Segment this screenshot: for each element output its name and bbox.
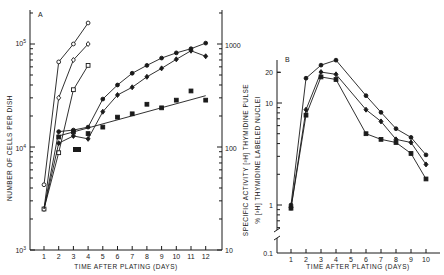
x-tick-label: 4: [86, 253, 90, 260]
panel-label-b: B: [285, 56, 290, 63]
data-point-square: [145, 102, 149, 106]
data-point-circle: [204, 41, 208, 45]
data-point-circle: [72, 42, 76, 46]
y2-tick-label: 100: [225, 145, 237, 152]
x-tick-label: 9: [160, 253, 164, 260]
y-tick-label: 0.1: [263, 250, 273, 257]
panel-b: 0.11102012345678910TIME AFTER PLATING (D…: [242, 56, 440, 271]
data-point-square: [57, 151, 61, 155]
plating-marker-bar: [73, 147, 81, 152]
data-point-circle: [424, 153, 428, 157]
data-point-circle: [379, 110, 383, 114]
data-point-square: [364, 132, 368, 136]
y-axis-label: NUMBER OF CELLS PER DISH: [6, 95, 13, 201]
x-tick-label: 3: [71, 253, 75, 260]
panel-a: 103104105101001000123456789101112TIME AF…: [6, 10, 241, 271]
data-point-circle: [394, 127, 398, 131]
data-point-square: [394, 141, 398, 145]
data-point-square: [116, 115, 120, 119]
data-point-diamond: [57, 95, 61, 100]
data-point-square: [409, 152, 413, 156]
series-line: [291, 72, 426, 208]
x-axis-label: TIME AFTER PLATING (DAYS): [306, 263, 409, 271]
axis-break-icon: [274, 228, 280, 240]
data-point-square: [289, 206, 293, 210]
x-tick-label: 7: [130, 253, 134, 260]
data-point-circle: [130, 71, 134, 75]
x-tick-label: 10: [422, 256, 430, 263]
data-point-square: [72, 88, 76, 92]
x-axis-label: TIME AFTER PLATING (DAYS): [74, 263, 177, 271]
panel-label-a: A: [38, 11, 43, 18]
data-point-circle: [116, 83, 120, 87]
x-tick-label: 8: [145, 253, 149, 260]
data-point-circle: [319, 63, 323, 67]
y2-tick-label: 1000: [225, 42, 241, 49]
data-point-square: [334, 78, 338, 82]
data-point-square: [379, 137, 383, 141]
data-point-square: [189, 89, 193, 93]
data-point-circle: [101, 97, 105, 101]
series-line: [291, 60, 426, 205]
data-point-circle: [334, 58, 338, 62]
x-tick-label: 5: [101, 253, 105, 260]
x-tick-label: 3: [319, 256, 323, 263]
x-tick-label: 2: [304, 256, 308, 263]
data-point-circle: [364, 94, 368, 98]
y-tick-label: 104: [15, 143, 26, 152]
data-point-diamond: [204, 54, 208, 59]
data-point-square: [72, 130, 76, 134]
data-point-square: [160, 106, 164, 110]
y-axis-label-specific-activity: SPECIFIC ACTIVITY [³H] THYMIDINE PULSE: [242, 84, 250, 237]
data-point-diamond: [130, 85, 134, 90]
data-point-square: [319, 75, 323, 79]
data-point-circle: [86, 21, 90, 25]
x-tick-label: 4: [334, 256, 338, 263]
x-tick-label: 6: [364, 256, 368, 263]
x-tick-label: 5: [349, 256, 353, 263]
data-point-circle: [174, 51, 178, 55]
data-point-circle: [145, 63, 149, 67]
y2-tick-label: 10: [225, 247, 233, 254]
x-tick-label: 8: [394, 256, 398, 263]
y-axis-label-labeled-nuclei: % [³H] THYMIDINE LABELED NUCLEI: [254, 96, 262, 224]
data-point-circle: [409, 135, 413, 139]
x-tick-label: 9: [409, 256, 413, 263]
x-tick-label: 1: [289, 256, 293, 263]
data-point-circle: [57, 60, 61, 64]
y-tick-label: 20: [265, 69, 273, 76]
data-point-circle: [304, 76, 308, 80]
x-tick-label: 6: [116, 253, 120, 260]
y-tick-label: 10: [265, 100, 273, 107]
x-tick-label: 2: [57, 253, 61, 260]
data-point-diamond: [160, 66, 164, 71]
data-point-square: [174, 98, 178, 102]
x-tick-label: 7: [379, 256, 383, 263]
data-point-diamond: [174, 57, 178, 62]
data-point-square: [204, 98, 208, 102]
x-tick-label: 1: [42, 253, 46, 260]
data-point-square: [86, 132, 90, 136]
y-tick-label: 105: [15, 38, 26, 47]
x-tick-label: 11: [187, 253, 194, 260]
data-point-square: [101, 125, 105, 129]
data-point-circle: [42, 183, 46, 187]
data-point-square: [130, 112, 134, 116]
data-point-diamond: [145, 74, 149, 79]
y-tick-label: 1: [269, 202, 273, 209]
series-line: [59, 51, 206, 143]
data-point-diamond: [319, 70, 323, 75]
data-point-square: [86, 63, 90, 67]
y-tick-label: 103: [15, 245, 26, 254]
figure: 103104105101001000123456789101112TIME AF…: [0, 0, 444, 275]
x-tick-label: 10: [172, 253, 180, 260]
x-tick-label: 12: [202, 253, 210, 260]
data-point-square: [424, 177, 428, 181]
data-point-square: [304, 113, 308, 117]
data-point-circle: [160, 56, 164, 60]
